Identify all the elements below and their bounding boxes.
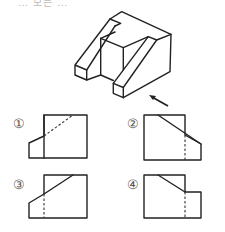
option-4-label[interactable]: ④ <box>127 178 139 191</box>
option-2-label[interactable]: ② <box>127 117 139 130</box>
isometric-object <box>75 12 171 98</box>
option-2-drawing[interactable] <box>144 115 201 160</box>
option-4-drawing[interactable] <box>144 175 201 218</box>
view-direction-arrow <box>149 95 168 106</box>
option-1-drawing[interactable] <box>29 115 87 158</box>
option-3-label[interactable]: ③ <box>13 178 25 191</box>
option-1-label[interactable]: ① <box>13 117 25 130</box>
diagram-canvas <box>0 0 225 232</box>
option-3-drawing[interactable] <box>29 175 87 218</box>
